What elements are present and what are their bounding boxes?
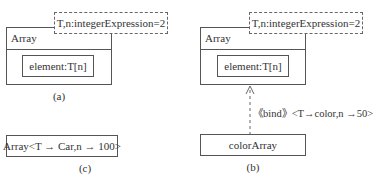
bind-label: 《bind》<T→color,n →50> <box>253 105 373 120</box>
caption-b: (b) <box>238 161 268 173</box>
color-array-box: colorArray <box>200 134 306 156</box>
bound-array-box-c: Array<T → Car,n → 100> <box>6 135 118 157</box>
caption-c: (c) <box>70 162 100 174</box>
